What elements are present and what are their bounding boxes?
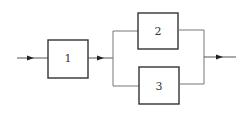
arrowhead-icon [97, 56, 104, 61]
output-arrow [204, 55, 236, 60]
arrowhead-icon [27, 56, 34, 61]
block-2-label: 2 [155, 25, 162, 38]
block-diagram: 1 2 3 [0, 0, 246, 115]
connector-1-to-split [88, 56, 113, 61]
block-2: 2 [138, 13, 178, 49]
input-arrow [17, 56, 48, 61]
block-1-label: 1 [65, 52, 72, 65]
arrowhead-icon [216, 55, 223, 60]
block-3-label: 3 [156, 80, 163, 93]
block-1: 1 [48, 40, 88, 78]
block-3: 3 [139, 67, 179, 104]
